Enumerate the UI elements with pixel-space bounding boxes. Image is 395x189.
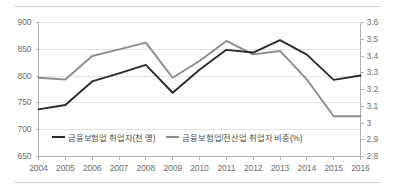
chart-figure: 650700750800850900 2.82.933.13.23.33.43.… <box>0 0 395 189</box>
legend-item-series-2: 금융보험업/전산업 취업자 비중(%) <box>166 131 302 143</box>
y-right-tick-3-1: 3.1 <box>367 101 393 111</box>
x-tick-2016: 2016 <box>348 163 374 173</box>
y-right-tick-3-6: 3.6 <box>367 17 393 27</box>
y-left-tick-700: 700 <box>6 124 32 134</box>
x-tick-2008: 2008 <box>133 163 159 173</box>
y-left-tick-800: 800 <box>6 71 32 81</box>
x-tick-2013: 2013 <box>267 163 293 173</box>
y-right-tick-2-9: 2.9 <box>367 134 393 144</box>
x-tick-2011: 2011 <box>213 163 239 173</box>
y-right-tick-2-8: 2.8 <box>367 151 393 161</box>
series-lines <box>39 40 361 116</box>
x-tick-2006: 2006 <box>79 163 105 173</box>
y-right-tick-3-5: 3.5 <box>367 34 393 44</box>
x-tick-2005: 2005 <box>52 163 78 173</box>
y-left-tick-750: 750 <box>6 97 32 107</box>
y-right-tick-3-2: 3.2 <box>367 84 393 94</box>
legend-swatch-series-2 <box>166 136 179 138</box>
y-left-tick-900: 900 <box>6 17 32 27</box>
y-left-tick-650: 650 <box>6 151 32 161</box>
y-right-tick-3-3: 3.3 <box>367 67 393 77</box>
x-tick-2010: 2010 <box>187 163 213 173</box>
y-right-tick-3: 3 <box>367 118 393 128</box>
x-tick-2009: 2009 <box>160 163 186 173</box>
x-tick-2007: 2007 <box>106 163 132 173</box>
y-right-tick-3-4: 3.4 <box>367 51 393 61</box>
legend-swatch-series-1 <box>52 136 65 138</box>
x-tick-2014: 2014 <box>294 163 320 173</box>
x-tick-2012: 2012 <box>240 163 266 173</box>
plot-area <box>0 0 395 189</box>
chart-legend: 금융보험업 취업자(천 명) 금융보험업/전산업 취업자 비중(%) <box>52 131 302 143</box>
y-left-tick-850: 850 <box>6 44 32 54</box>
x-tick-2015: 2015 <box>321 163 347 173</box>
legend-label-series-1: 금융보험업 취업자(천 명) <box>68 131 155 143</box>
legend-item-series-1: 금융보험업 취업자(천 명) <box>52 131 155 143</box>
x-tick-2004: 2004 <box>26 163 52 173</box>
legend-label-series-2: 금융보험업/전산업 취업자 비중(%) <box>182 131 302 143</box>
